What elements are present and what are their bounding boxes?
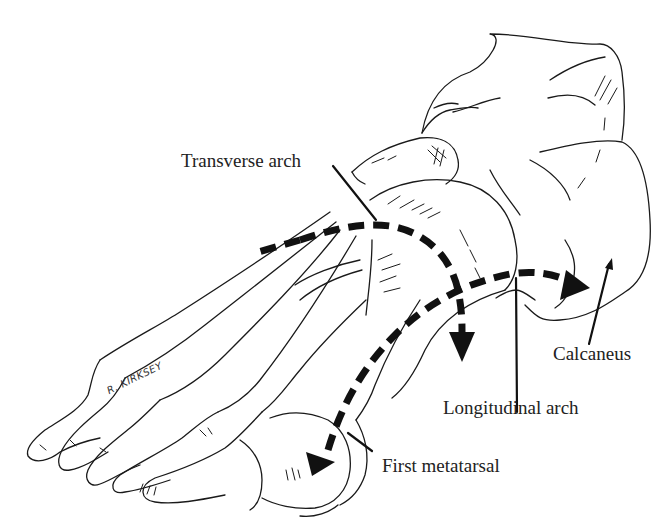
metatarsals-outline xyxy=(100,212,505,420)
transverse-arch-leader xyxy=(333,166,376,220)
longitudinal-arch-arrowhead-heel xyxy=(560,270,590,300)
longitudinal-arch-arrowhead-toe xyxy=(306,452,335,476)
toes-outline xyxy=(27,360,367,516)
transverse-arch-arrow xyxy=(258,225,475,362)
longitudinal-arch-leader xyxy=(516,278,517,412)
foot-illustration xyxy=(0,0,665,527)
foot-arches-diagram: Transverse arch Calcaneus Longitudinal a… xyxy=(0,0,665,527)
talus-outline xyxy=(422,34,624,140)
navicular-outline xyxy=(352,138,458,184)
first-metatarsal-label: First metatarsal xyxy=(382,456,500,475)
longitudinal-arch-arrow xyxy=(306,270,590,476)
longitudinal-arch-label: Longitudinal arch xyxy=(443,398,579,417)
cuneiform-outline xyxy=(366,180,517,315)
first-metatarsal-leader xyxy=(348,433,372,451)
transverse-arch-arrowhead xyxy=(449,332,475,362)
calcaneus-label: Calcaneus xyxy=(553,344,631,363)
transverse-arch-label: Transverse arch xyxy=(181,151,301,170)
